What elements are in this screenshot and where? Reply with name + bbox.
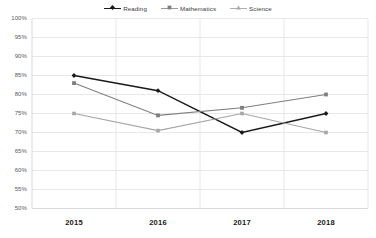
plot-area	[0, 0, 376, 238]
x-tick-label-2018: 2018	[296, 218, 356, 227]
y-tick-label: 95%	[0, 34, 27, 40]
data-point-science-2017	[240, 112, 244, 116]
y-tick-label: 55%	[0, 186, 27, 192]
y-tick-label: 65%	[0, 148, 27, 154]
data-point-science-2016	[156, 129, 160, 133]
y-tick-label: 100%	[0, 15, 27, 21]
data-point-mathematics-2017	[240, 106, 244, 110]
y-tick-label: 90%	[0, 53, 27, 59]
y-tick-label: 60%	[0, 167, 27, 173]
data-point-science-2018	[324, 131, 328, 135]
line-chart: Reading Mathematics Science 100%95%90%85…	[0, 0, 376, 238]
data-point-mathematics-2018	[324, 93, 328, 97]
y-tick-label: 75%	[0, 110, 27, 116]
data-point-science-2015	[72, 112, 76, 116]
y-tick-label: 80%	[0, 91, 27, 97]
y-tick-label: 85%	[0, 72, 27, 78]
y-tick-label: 70%	[0, 129, 27, 135]
x-tick-label-2016: 2016	[128, 218, 188, 227]
y-tick-label: 50%	[0, 205, 27, 211]
x-tick-label-2015: 2015	[44, 218, 104, 227]
x-tick-label-2017: 2017	[212, 218, 272, 227]
data-point-mathematics-2015	[72, 81, 76, 85]
data-point-mathematics-2016	[156, 114, 160, 118]
